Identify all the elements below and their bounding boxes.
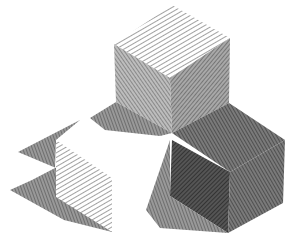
- hatched-cubes-drawing: [0, 0, 296, 251]
- left-step-shape: [10, 120, 112, 232]
